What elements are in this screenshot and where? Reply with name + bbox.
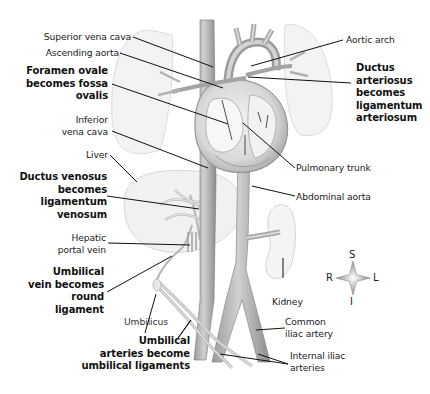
label-line: Umbilical	[28, 266, 104, 279]
label-line: Ductus	[356, 62, 422, 75]
label-line: Foramen ovale	[26, 65, 108, 78]
label-line: Umbilical	[82, 335, 190, 348]
label-line: Inferior	[62, 114, 108, 126]
label-line: venosum	[19, 209, 107, 222]
label-line: Common	[285, 316, 333, 328]
label-line: vein becomes	[28, 279, 104, 292]
label-superior-vena-cava: Superior vena cava	[44, 31, 131, 43]
label-hepatic-portal-vein: Hepatic portal vein	[58, 232, 106, 255]
kidney	[266, 205, 296, 279]
label-line: Ductus venosus	[19, 171, 107, 184]
label-aortic-arch: Aortic arch	[346, 34, 395, 46]
compass-star-icon	[336, 261, 370, 295]
label-line: arteries become	[82, 348, 190, 361]
label-line: Internal iliac	[290, 350, 345, 362]
label-umbilical-vein: Umbilical vein becomes round ligament	[28, 266, 104, 316]
label-line: ovalis	[26, 90, 108, 103]
label-line: vena cava	[62, 126, 108, 138]
label-line: arteriosum	[356, 112, 422, 125]
label-line: portal vein	[58, 244, 106, 256]
liver	[124, 170, 241, 252]
label-umbilicus: Umbilicus	[124, 316, 168, 328]
label-foramen-ovale: Foramen ovale becomes fossa ovalis	[26, 65, 108, 103]
label-ductus-arteriosus: Ductus arteriosus becomes ligamentum art…	[356, 62, 422, 125]
fetal-circulation-diagram: Superior vena cava Ascending aorta Foram…	[0, 0, 430, 394]
label-line: umbilical ligaments	[82, 360, 190, 373]
label-line: becomes fossa	[26, 78, 108, 91]
label-line: round	[28, 291, 104, 304]
compass-superior-label: S	[349, 249, 355, 260]
label-umbilical-arteries: Umbilical arteries become umbilical liga…	[82, 335, 190, 373]
label-abdominal-aorta: Abdominal aorta	[296, 191, 371, 203]
label-kidney: Kidney	[272, 296, 303, 308]
label-line: arteries	[290, 362, 345, 374]
label-line: ligamentum	[19, 196, 107, 209]
compass-right-label: R	[326, 272, 333, 283]
label-line: iliac artery	[285, 328, 333, 340]
label-line: ligamentum	[356, 100, 422, 113]
label-ascending-aorta: Ascending aorta	[46, 47, 119, 59]
compass-inferior-label: I	[350, 296, 353, 307]
label-common-iliac-artery: Common iliac artery	[285, 316, 333, 339]
label-ductus-venosus: Ductus venosus becomes ligamentum venosu…	[19, 171, 107, 221]
compass-left-label: L	[373, 272, 379, 283]
label-line: Hepatic	[58, 232, 106, 244]
label-line: becomes	[19, 184, 107, 197]
label-inferior-vena-cava: Inferior vena cava	[62, 114, 108, 137]
label-pulmonary-trunk: Pulmonary trunk	[296, 162, 371, 174]
label-liver: Liver	[86, 149, 108, 161]
label-line: arteriosus	[356, 75, 422, 88]
label-line: ligament	[28, 304, 104, 317]
label-line: becomes	[356, 87, 422, 100]
label-internal-iliac-arteries: Internal iliac arteries	[290, 350, 345, 373]
